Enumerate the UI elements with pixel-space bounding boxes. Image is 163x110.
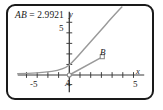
y-tick-label-5: 5 <box>59 23 64 33</box>
point-B-label: B <box>100 47 106 57</box>
point-A-marker[interactable] <box>67 73 71 77</box>
measurement-equals: = <box>27 10 37 20</box>
y-axis-label: y <box>69 9 73 19</box>
x-axis-label: x <box>136 66 140 76</box>
x-tick-label-minus5: -5 <box>30 79 38 89</box>
measurement-readout[interactable]: AB = 2.9921 <box>15 10 64 20</box>
graph-frame: AB = 2.9921 y x 5 -5 5 A B <box>6 4 154 100</box>
figure-screenshot: AB = 2.9921 y x 5 -5 5 A B <box>0 0 163 110</box>
measurement-segment-name: AB <box>15 10 27 20</box>
point-A-label: A <box>65 78 71 88</box>
x-tick-label-5: 5 <box>133 79 138 89</box>
measurement-value: 2.9921 <box>37 10 64 20</box>
